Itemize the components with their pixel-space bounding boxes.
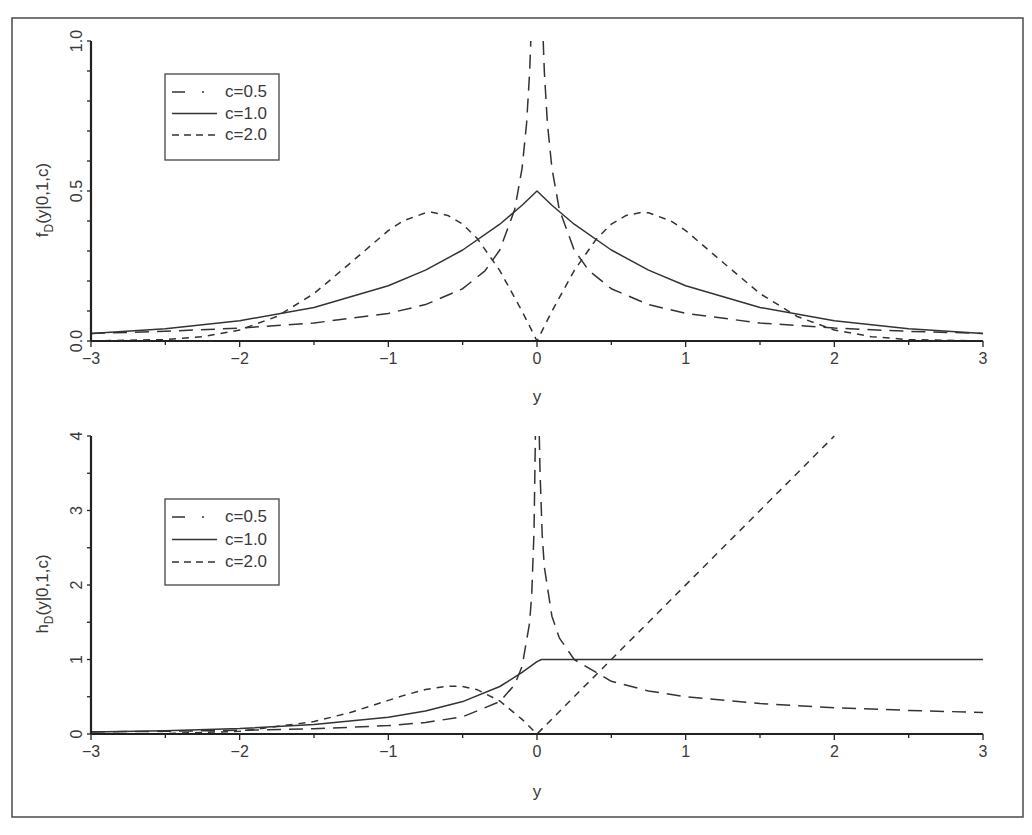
figure-frame — [12, 18, 1023, 817]
y-tick-label: 1.0 — [68, 30, 85, 52]
x-tick-label: 0 — [533, 350, 542, 367]
y-tick-label: 1 — [68, 655, 85, 664]
series-c10 — [91, 191, 983, 334]
x-tick-label: 2 — [830, 350, 839, 367]
x-axis-label: y — [533, 387, 542, 406]
x-tick-label: 1 — [681, 743, 690, 760]
x-tick-label: −1 — [379, 350, 397, 367]
chart-density: fD(y|0,1,c) y −3−2−101230.00.51.0c=0.5c=… — [33, 30, 988, 406]
x-tick-label: 0 — [533, 743, 542, 760]
x-tick-label: −2 — [231, 350, 249, 367]
x-tick-label: 1 — [681, 350, 690, 367]
y-tick-label: 3 — [68, 506, 85, 515]
x-tick-label: −2 — [231, 743, 249, 760]
y-tick-label: 4 — [68, 431, 85, 440]
figure: fD(y|0,1,c) y −3−2−101230.00.51.0c=0.5c=… — [0, 0, 1032, 835]
legend-label: c=0.5 — [225, 507, 267, 526]
legend-label: c=1.0 — [225, 530, 267, 549]
chart-hazard: hD(y|0,1,c) y −3−2−1012301234c=0.5c=1.0c… — [33, 431, 988, 801]
series-c10 — [91, 660, 983, 733]
legend-label: c=0.5 — [225, 82, 267, 101]
legend-label: c=2.0 — [225, 125, 267, 144]
x-tick-label: −1 — [379, 743, 397, 760]
y-tick-label: 0.5 — [68, 180, 85, 202]
y-tick-label: 2 — [68, 580, 85, 589]
x-tick-label: −3 — [82, 743, 100, 760]
legend: c=0.5c=1.0c=2.0 — [165, 499, 279, 585]
legend-label: c=1.0 — [225, 104, 267, 123]
legend: c=0.5c=1.0c=2.0 — [165, 74, 279, 160]
x-tick-label: 3 — [979, 743, 988, 760]
x-tick-label: 3 — [979, 350, 988, 367]
y-axis-label: hD(y|0,1,c) — [33, 554, 56, 633]
legend-label: c=2.0 — [225, 552, 267, 571]
y-tick-label: 0.0 — [68, 330, 85, 352]
x-axis-label: y — [533, 782, 542, 801]
x-tick-label: 2 — [830, 743, 839, 760]
y-axis-label: fD(y|0,1,c) — [33, 163, 56, 238]
y-tick-label: 0 — [68, 729, 85, 738]
